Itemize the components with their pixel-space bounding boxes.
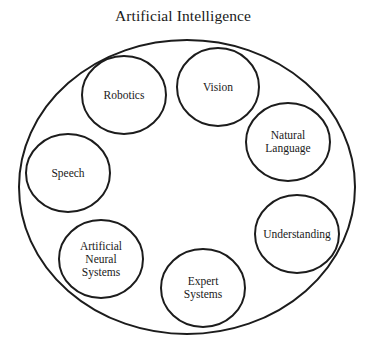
node-natural-language-label: NaturalLanguage xyxy=(265,129,310,155)
node-robotics-label: Robotics xyxy=(104,89,145,102)
node-label-line: Systems xyxy=(184,288,222,301)
node-label-line: Artificial xyxy=(80,240,122,253)
node-understanding-label: Understanding xyxy=(263,228,331,241)
node-label-line: Language xyxy=(265,142,310,155)
node-label-line: Robotics xyxy=(104,89,145,102)
node-label-line: Vision xyxy=(203,81,233,94)
node-speech-label: Speech xyxy=(51,167,84,180)
node-shapes xyxy=(26,48,339,327)
node-vision-label: Vision xyxy=(203,81,233,94)
node-label-line: Understanding xyxy=(263,228,331,241)
node-artificial-neural-systems-label: ArtificialNeuralSystems xyxy=(80,240,122,279)
node-label-line: Neural xyxy=(80,253,122,266)
node-label-line: Expert xyxy=(184,275,222,288)
node-label-line: Systems xyxy=(80,266,122,279)
node-label-line: Speech xyxy=(51,167,84,180)
node-expert-systems-label: ExpertSystems xyxy=(184,275,222,301)
node-label-line: Natural xyxy=(265,129,310,142)
